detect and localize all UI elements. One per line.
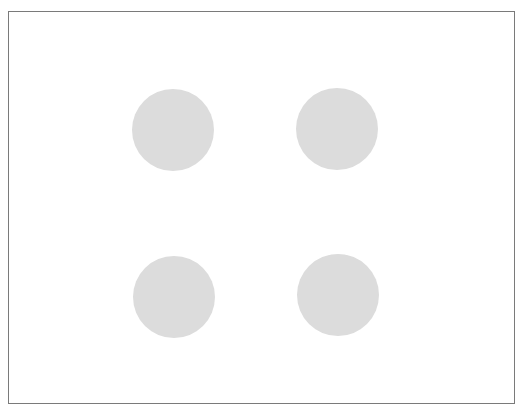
circle-bottom-right (297, 254, 379, 336)
figure-frame (8, 11, 515, 404)
circle-top-left (132, 89, 214, 171)
circle-bottom-left (133, 256, 215, 338)
circle-top-right (296, 88, 378, 170)
